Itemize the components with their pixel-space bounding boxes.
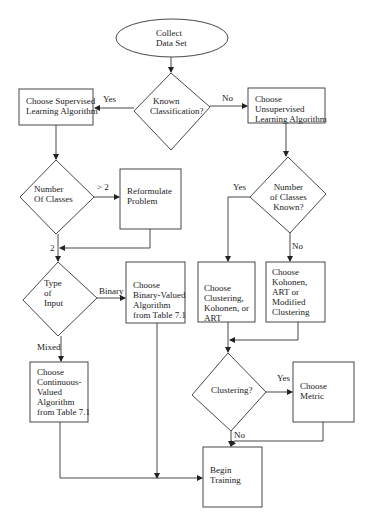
edge-label-no-known: No [292, 241, 303, 251]
edge-label-yes-known: Yes [233, 182, 246, 192]
flowchart-connectors [0, 0, 368, 523]
edge-label-eq2: 2 [50, 243, 55, 253]
clustering-question-label: Clustering? [211, 385, 253, 395]
edge-label-yes-supervised: Yes [103, 94, 116, 104]
choose-metric-label: Choose Metric [300, 381, 327, 401]
begin-training-label: Begin Training [210, 465, 241, 485]
classes-known-label: Number of Classes Known? [270, 182, 307, 212]
start-node-label: Collect Data Set [156, 28, 187, 48]
edge-label-mixed: Mixed [37, 342, 61, 352]
binary-valued-label: Choose Binary-Valued Algorithm from Tabl… [133, 280, 186, 320]
edge-label-gt2: > 2 [97, 182, 109, 192]
kohonen-art-modified-label: Choose Kohonen, ART or Modified Clusteri… [272, 267, 310, 317]
type-of-input-label: Type of Input [44, 278, 63, 308]
unsupervised-label: Choose Unsupervised Learning Algorithm [255, 94, 327, 124]
number-of-classes-label: Number Of Classes [34, 184, 73, 204]
continuous-valued-label: Choose Continuous- Valued Algorithm from… [37, 367, 90, 417]
edge-label-yes-clustering: Yes [277, 373, 290, 383]
edge-label-no-unsupervised: No [222, 93, 233, 103]
reformulate-label: Reformulate Problem [127, 186, 172, 206]
known-classification-label: Known Classification? [150, 96, 204, 116]
edge-label-binary: Binary [99, 286, 124, 296]
supervised-label: Choose Supervised Learning Algorithm [26, 96, 98, 116]
edge-label-no-clustering: No [234, 430, 245, 440]
clustering-kohonen-art-label: Choose Clustering, Kohonen, or ART [204, 283, 249, 323]
